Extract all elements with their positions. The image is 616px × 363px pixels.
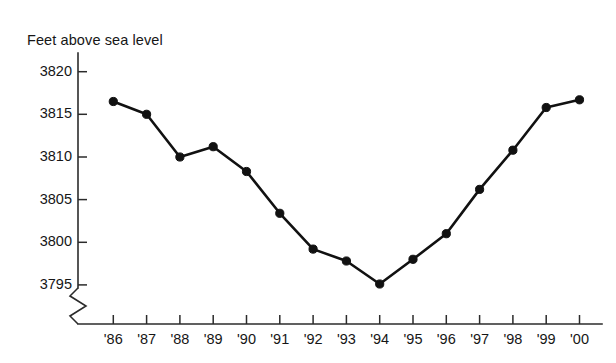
plot-area <box>0 0 616 363</box>
data-point <box>242 167 250 175</box>
data-point-group <box>109 96 583 288</box>
data-point <box>409 255 417 263</box>
y-tick-label: 3815 <box>14 105 72 121</box>
y-tick-label: 3795 <box>14 276 72 292</box>
axis-break-zigzag <box>70 288 86 324</box>
data-point <box>442 230 450 238</box>
x-tick-label: '00 <box>560 331 600 347</box>
data-point <box>575 96 583 104</box>
y-tick-marks <box>78 72 87 285</box>
data-point <box>209 143 217 151</box>
data-point <box>342 257 350 265</box>
data-point <box>509 146 517 154</box>
data-point <box>276 209 284 217</box>
data-point <box>476 185 484 193</box>
y-tick-label: 3810 <box>14 148 72 164</box>
data-point <box>176 153 184 161</box>
data-point <box>143 110 151 118</box>
x-tick-marks <box>113 315 579 324</box>
y-tick-label: 3805 <box>14 191 72 207</box>
data-point <box>542 103 550 111</box>
y-tick-label: 3800 <box>14 233 72 249</box>
data-series-line <box>113 100 579 284</box>
y-tick-label: 3820 <box>14 63 72 79</box>
data-point <box>109 97 117 105</box>
data-point <box>309 245 317 253</box>
line-chart-figure: Feet above sea level <box>0 0 616 363</box>
data-point <box>376 280 384 288</box>
